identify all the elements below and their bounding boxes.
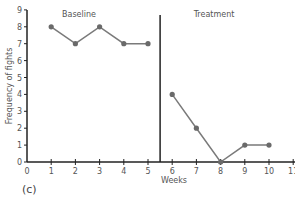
x-tick-label: 8	[218, 167, 223, 176]
y-tick-label: 4	[17, 90, 22, 99]
y-tick-label: 7	[17, 40, 22, 49]
data-point	[242, 143, 247, 148]
y-tick-label: 0	[17, 158, 22, 167]
x-tick-label: 3	[97, 167, 102, 176]
data-point	[194, 126, 199, 131]
x-tick-label: 6	[170, 167, 175, 176]
y-tick-label: 6	[17, 57, 22, 66]
x-axis-label: Weeks	[161, 176, 187, 185]
phase-label-baseline: Baseline	[62, 10, 96, 19]
single-case-line-chart: 012345678901234567891011 BaselineTreatme…	[0, 0, 295, 203]
data-point	[97, 24, 102, 29]
x-tick-label: 10	[264, 167, 274, 176]
x-tick-label: 0	[24, 167, 29, 176]
data-point	[170, 92, 175, 97]
x-tick-label: 7	[194, 167, 199, 176]
y-tick-label: 2	[17, 124, 22, 133]
data-point	[121, 41, 126, 46]
x-tick-label: 9	[242, 167, 247, 176]
y-axis-label: Frequency of fights	[5, 48, 14, 125]
y-tick-label: 9	[17, 6, 22, 15]
y-tick-label: 8	[17, 23, 22, 32]
x-tick-label: 11	[288, 167, 295, 176]
series-line-treatment	[172, 94, 269, 162]
data-point	[145, 41, 150, 46]
y-tick-label: 1	[17, 141, 22, 150]
data-point	[73, 41, 78, 46]
y-tick-label: 3	[17, 107, 22, 116]
data-point	[49, 24, 54, 29]
panel-label: (c)	[22, 183, 37, 196]
x-tick-label: 4	[121, 167, 126, 176]
data-point	[266, 143, 271, 148]
data-point	[218, 159, 223, 164]
chart-labels: BaselineTreatmentWeeksFrequency of fight…	[5, 10, 234, 196]
phase-label-treatment: Treatment	[193, 10, 235, 19]
y-tick-label: 5	[17, 74, 22, 83]
x-tick-label: 5	[145, 167, 150, 176]
x-tick-label: 2	[73, 167, 78, 176]
x-tick-label: 1	[49, 167, 54, 176]
